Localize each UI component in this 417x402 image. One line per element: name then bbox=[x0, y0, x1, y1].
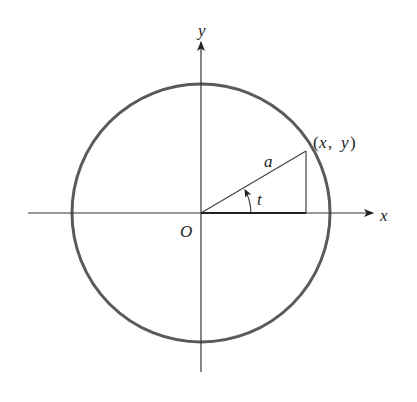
x-axis-label: x bbox=[379, 206, 388, 225]
radius-line bbox=[201, 151, 306, 213]
origin-label: O bbox=[180, 222, 192, 241]
point-x: x bbox=[318, 133, 327, 152]
angle-label: t bbox=[257, 190, 263, 209]
point-y: y bbox=[339, 133, 349, 152]
y-axis-label: y bbox=[196, 21, 206, 40]
radius-label: a bbox=[264, 152, 273, 171]
point-label: ( x , y ) bbox=[313, 133, 356, 152]
diagram-canvas: y x O a t ( x , y ) bbox=[0, 0, 417, 402]
point-paren-close: ) bbox=[350, 133, 356, 152]
point-comma: , bbox=[328, 133, 332, 152]
angle-arc bbox=[245, 190, 251, 213]
